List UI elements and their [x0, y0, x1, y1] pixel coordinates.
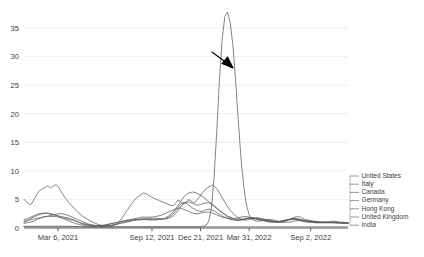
legend-label: Italy	[362, 180, 375, 188]
x-tick-label: Mar 31, 2022	[227, 233, 272, 242]
legend-label: Canada	[362, 188, 385, 195]
peak-annotation-arrow	[212, 52, 233, 68]
gridlines	[24, 28, 348, 199]
x-tick-label: Sep 12, 2021	[129, 233, 174, 242]
x-axis-tick-labels: Mar 6, 2021Sep 12, 2021Dec 21, 2021Mar 3…	[38, 233, 331, 242]
chart-canvas: 05101520253035 Mar 6, 2021Sep 12, 2021De…	[0, 0, 424, 257]
legend-label: Hong Kong	[362, 205, 395, 213]
y-tick-label: 0	[15, 224, 19, 233]
legend: United StatesItalyCanadaGermanyHong Kong…	[350, 172, 409, 228]
y-tick-label: 35	[11, 24, 19, 33]
x-axis	[24, 228, 348, 231]
y-tick-label: 30	[11, 52, 19, 61]
legend-label: Germany	[362, 196, 390, 204]
legend-label: United States	[362, 172, 402, 179]
arrow-head	[222, 57, 233, 68]
x-tick-label: Sep 2, 2022	[290, 233, 331, 242]
x-tick-label: Mar 6, 2021	[38, 233, 79, 242]
line-chart: 05101520253035 Mar 6, 2021Sep 12, 2021De…	[0, 0, 424, 257]
y-tick-label: 25	[11, 81, 19, 90]
y-tick-label: 10	[11, 167, 19, 176]
y-tick-label: 20	[11, 110, 19, 119]
series-line	[24, 192, 348, 226]
y-tick-label: 5	[15, 195, 19, 204]
y-tick-label: 15	[11, 138, 19, 147]
y-axis-tick-labels: 05101520253035	[11, 24, 19, 233]
x-tick-label: Dec 21, 2021	[178, 233, 223, 242]
legend-label: India	[362, 221, 377, 228]
data-series-group	[24, 12, 348, 227]
series-line	[24, 226, 348, 227]
legend-label: United Kingdom	[362, 213, 409, 221]
